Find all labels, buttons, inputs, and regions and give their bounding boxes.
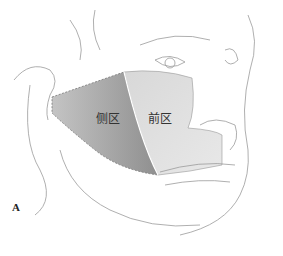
panel-label: A (12, 201, 20, 213)
lateral-zone-label: 侧区 (96, 109, 120, 126)
face-drawing (0, 0, 283, 256)
face-illustration: 侧区 前区 A (0, 0, 283, 256)
anterior-zone-label: 前区 (148, 109, 172, 126)
